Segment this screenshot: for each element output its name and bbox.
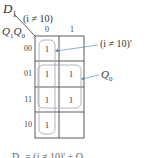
row-var-sub0: 0 bbox=[21, 32, 25, 40]
row-header-10: 10 bbox=[12, 120, 32, 129]
group-annotation-q0: Q0 bbox=[101, 68, 112, 83]
output-label: D1 bbox=[3, 1, 16, 19]
cell-01-0: 1 bbox=[35, 61, 59, 86]
q0-main: Q bbox=[101, 68, 109, 80]
row-header-00: 00 bbox=[12, 44, 32, 53]
cell-01-1: 1 bbox=[59, 61, 83, 86]
q0-sub: 0 bbox=[109, 75, 113, 83]
output-subscript: 1 bbox=[12, 10, 16, 19]
column-variable: (i ≠ 10) bbox=[23, 13, 53, 24]
cell-10-0: 1 bbox=[35, 112, 59, 137]
row-var-q1: Q bbox=[2, 25, 10, 37]
row-header-01: 01 bbox=[12, 69, 32, 78]
cell-00-0: 1 bbox=[35, 36, 59, 61]
cell-11-0: 1 bbox=[35, 87, 59, 112]
row-variables: Q1Q0 bbox=[2, 25, 25, 40]
output-var: D bbox=[3, 1, 12, 16]
group-annotation-not-i10: (i ≠ 10)' bbox=[100, 38, 132, 49]
equation: D₁ = (i ≠ 10)' + Q₀ bbox=[12, 151, 86, 158]
column-header-0: 0 bbox=[35, 25, 59, 34]
column-header-1: 1 bbox=[60, 25, 84, 34]
cell-10-1 bbox=[59, 112, 83, 137]
cell-00-1 bbox=[59, 36, 83, 61]
cell-11-1: 1 bbox=[59, 87, 83, 112]
row-header-11: 11 bbox=[12, 95, 32, 104]
